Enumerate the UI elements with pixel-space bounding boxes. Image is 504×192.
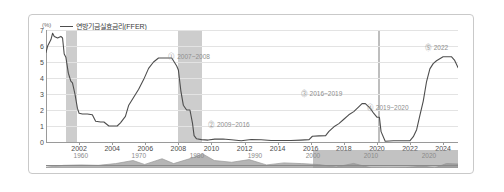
y-tick-label-1: 1 — [14, 123, 44, 130]
annotation-a4: ⓸ 2019~2020 — [367, 104, 409, 111]
x-tick-mark-2020 — [377, 142, 378, 145]
navigator-tick-2010: 2010 — [358, 152, 384, 159]
y-tick-label-4: 4 — [14, 75, 44, 82]
y-tick-label-5: 5 — [14, 59, 44, 66]
annotation-a5: ⓹ 2022 — [425, 44, 448, 51]
x-tick-mark-2022 — [410, 142, 411, 145]
y-tick-label-2: 2 — [14, 107, 44, 114]
x-tick-mark-2024 — [443, 142, 444, 145]
x-tick-mark-2012 — [245, 142, 246, 145]
x-tick-mark-2014 — [278, 142, 279, 145]
y-tick-label-3: 3 — [14, 91, 44, 98]
x-tick-mark-2006 — [145, 142, 146, 145]
y-tick-label-7: 7 — [14, 27, 44, 34]
navigator-tick-1980: 1980 — [184, 152, 210, 159]
range-navigator[interactable]: 1960197019801990200020102020 — [46, 150, 458, 168]
annotation-a2: ⓶ 2009~2016 — [208, 121, 250, 128]
chart-screenshot: (%) 연방기금실효금리(FFER) 01234567 200220042006… — [0, 0, 504, 192]
navigator-tick-2020: 2020 — [416, 152, 442, 159]
x-tick-mark-2018 — [344, 142, 345, 145]
x-tick-mark-2002 — [79, 142, 80, 145]
x-tick-mark-2004 — [112, 142, 113, 145]
chart-plot-area: 01234567 2002200420062008201020122014201… — [46, 30, 458, 142]
y-tick-label-6: 6 — [14, 43, 44, 50]
ffer-line-series — [46, 30, 458, 142]
navigator-tick-1960: 1960 — [68, 152, 94, 159]
x-tick-mark-2010 — [211, 142, 212, 145]
gridline-y-0 — [46, 142, 458, 143]
navigator-tick-2000: 2000 — [300, 152, 326, 159]
navigator-tick-1990: 1990 — [242, 152, 268, 159]
series-line-0 — [46, 33, 458, 141]
annotation-a1: ⓵ 2007~2008 — [168, 53, 210, 60]
annotation-a3: ⓷ 2016~2019 — [301, 90, 343, 97]
x-tick-mark-2008 — [178, 142, 179, 145]
legend-line-swatch — [60, 26, 73, 27]
x-tick-mark-2016 — [311, 142, 312, 145]
y-tick-label-0: 0 — [14, 139, 44, 146]
navigator-baseline — [46, 165, 458, 166]
navigator-tick-1970: 1970 — [126, 152, 152, 159]
